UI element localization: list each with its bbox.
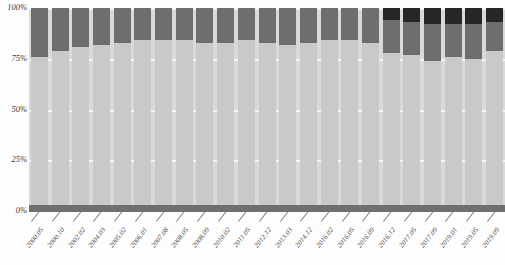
bar-segment-segment-2 xyxy=(445,24,462,56)
x-tick-label: 2013.03 xyxy=(273,226,294,249)
x-tick-line xyxy=(114,211,123,222)
bar-segment-segment-1 xyxy=(52,51,69,211)
x-tick-line xyxy=(73,211,82,222)
x-tick-label: 2000.10 xyxy=(46,226,67,249)
bar-segment-segment-1 xyxy=(155,40,172,211)
bar xyxy=(52,8,69,211)
bar xyxy=(383,8,400,211)
bar-segment-segment-1 xyxy=(403,55,420,211)
bar-segment-segment-1 xyxy=(424,61,441,211)
y-axis: 0%25%50%75%100% xyxy=(0,0,27,220)
x-tick-line xyxy=(259,211,268,222)
x-tick-line xyxy=(300,211,309,222)
bar-segment-segment-1 xyxy=(383,53,400,211)
x-tick-label: 2019.01 xyxy=(439,226,460,249)
bar-segment-segment-2 xyxy=(279,8,296,45)
x-tick-line xyxy=(280,211,289,222)
x-tick-line xyxy=(404,211,413,222)
x-tick-line xyxy=(218,211,227,222)
bar-segment-segment-1 xyxy=(465,59,482,211)
x-tick-line xyxy=(321,211,330,222)
x-tick-line xyxy=(445,211,454,222)
bar xyxy=(300,8,317,211)
x-tick-line xyxy=(362,211,371,222)
bar-segment-segment-1 xyxy=(217,43,234,211)
x-tick-line xyxy=(342,211,351,222)
bar-segment-segment-1 xyxy=(196,43,213,211)
bar xyxy=(486,8,503,211)
x-tick-line xyxy=(487,211,496,222)
bar-segment-segment-2 xyxy=(259,8,276,43)
bar xyxy=(362,8,379,211)
bar-segment-segment-2 xyxy=(300,8,317,43)
bar-segment-segment-1 xyxy=(300,43,317,211)
stacked-bar-chart: 0%25%50%75%100% 2000.052000.102002.02200… xyxy=(0,0,505,265)
x-tick-line xyxy=(238,211,247,222)
bar-segment-segment-2 xyxy=(321,8,338,40)
bar-segment-segment-1 xyxy=(445,57,462,211)
bar xyxy=(321,8,338,211)
bar-segment-segment-1 xyxy=(321,40,338,211)
bar xyxy=(445,8,462,211)
x-tick-line xyxy=(383,211,392,222)
x-tick-label: 2016.02 xyxy=(315,226,336,249)
x-tick-label: 2019.05 xyxy=(460,226,481,249)
bar-segment-segment-3 xyxy=(445,8,462,24)
x-tick-label: 2012.12 xyxy=(253,226,274,249)
x-tick-label: 2002.02 xyxy=(66,226,87,249)
bar xyxy=(279,8,296,211)
bar-segment-segment-1 xyxy=(93,45,110,211)
bar xyxy=(114,8,131,211)
x-tick-label: 2011.05 xyxy=(232,226,252,249)
x-tick-label: 2006.01 xyxy=(128,226,149,249)
bar-segment-segment-2 xyxy=(93,8,110,45)
x-tick-label: 2004.03 xyxy=(87,226,108,249)
bar xyxy=(155,8,172,211)
bar-segment-segment-1 xyxy=(72,47,89,211)
bar xyxy=(465,8,482,211)
bar-segment-segment-2 xyxy=(134,8,151,40)
bar-segment-segment-2 xyxy=(362,8,379,43)
x-tick-label: 2016.12 xyxy=(377,226,398,249)
y-tick-label: 75% xyxy=(1,54,27,63)
bar-segment-segment-2 xyxy=(486,22,503,50)
bar xyxy=(259,8,276,211)
x-tick-label: 2000.05 xyxy=(25,226,46,249)
bar-segment-segment-2 xyxy=(403,22,420,54)
bar xyxy=(72,8,89,211)
bar-segment-segment-1 xyxy=(31,57,48,211)
x-tick-label: 2017.09 xyxy=(418,226,439,249)
bar-segment-segment-2 xyxy=(114,8,131,43)
bar-segment-segment-2 xyxy=(31,8,48,57)
bar-segment-segment-2 xyxy=(217,8,234,43)
bar-segment-segment-1 xyxy=(259,43,276,211)
x-tick-line xyxy=(31,211,40,222)
bar-segment-segment-3 xyxy=(486,8,503,22)
bar-segment-segment-1 xyxy=(486,51,503,211)
bar-segment-segment-1 xyxy=(279,45,296,211)
bar-segment-segment-2 xyxy=(465,24,482,59)
bar xyxy=(217,8,234,211)
bar-segment-segment-2 xyxy=(155,8,172,40)
bar-segment-segment-1 xyxy=(362,43,379,211)
bar-segment-segment-3 xyxy=(403,8,420,22)
bar-segment-segment-2 xyxy=(52,8,69,51)
plot-area xyxy=(29,8,505,211)
x-tick-label: 2010.02 xyxy=(211,226,232,249)
bar-segment-segment-3 xyxy=(383,8,400,20)
bar xyxy=(424,8,441,211)
bar-segment-segment-2 xyxy=(238,8,255,40)
bar-segment-segment-3 xyxy=(465,8,482,24)
x-tick-label: 2016.05 xyxy=(335,226,356,249)
bar-segment-segment-1 xyxy=(238,40,255,211)
bar-segment-segment-2 xyxy=(383,20,400,52)
x-tick-label: 2008.09 xyxy=(190,226,211,249)
y-tick-label: 100% xyxy=(1,3,27,12)
bar-segment-segment-2 xyxy=(196,8,213,43)
bar-segment-segment-1 xyxy=(176,40,193,211)
x-axis: 2000.052000.102002.022004.032005.022006.… xyxy=(29,212,505,265)
x-tick-line xyxy=(93,211,102,222)
bar xyxy=(403,8,420,211)
x-tick-line xyxy=(52,211,61,222)
y-tick-label: 0% xyxy=(1,206,27,215)
